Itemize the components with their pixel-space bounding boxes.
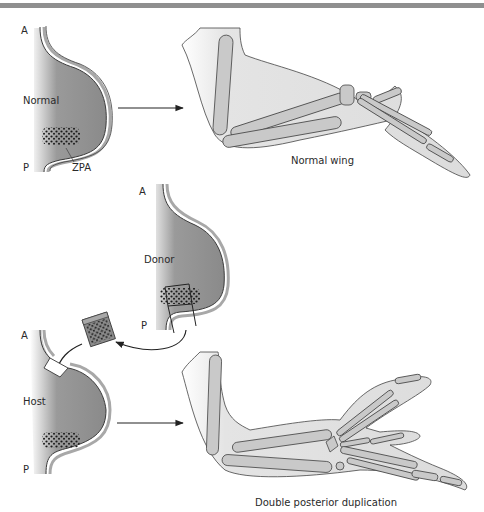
donor-anterior-label: A <box>139 186 146 197</box>
normal-bud-label: Normal <box>23 95 59 106</box>
host-bud-label: Host <box>23 396 46 407</box>
normal-anterior-label: A <box>21 25 28 36</box>
duplicated-wing <box>182 352 467 490</box>
diagram-canvas <box>0 0 484 512</box>
normal-wing-caption: Normal wing <box>291 155 354 166</box>
host-anterior-label: A <box>21 330 28 341</box>
donor-bud-label: Donor <box>144 254 174 265</box>
host-posterior-label: P <box>23 464 29 475</box>
donor-posterior-label: P <box>141 320 147 331</box>
duplicated-wing-caption: Double posterior duplication <box>255 497 397 508</box>
normal-posterior-label: P <box>23 162 29 173</box>
arrow-donor-to-graft <box>116 330 186 350</box>
zpa-label: ZPA <box>72 162 91 173</box>
zpa-graft <box>82 312 115 347</box>
